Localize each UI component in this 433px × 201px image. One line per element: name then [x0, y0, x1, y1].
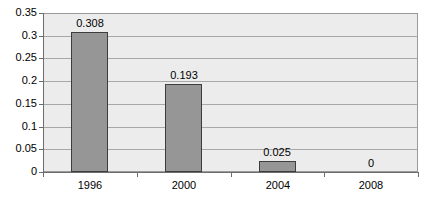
bar: [165, 84, 202, 172]
bar-value-label: 0.193: [149, 69, 219, 81]
y-axis-tick-label-wrap: 0.15: [0, 98, 37, 109]
x-axis-category-label: 2004: [231, 179, 325, 192]
y-axis-tick: [39, 104, 43, 105]
y-axis-tick-label: 0.05: [0, 143, 37, 154]
y-axis-tick-label: 0: [0, 166, 37, 177]
x-axis-category-label: 2008: [324, 179, 418, 192]
y-axis-tick-label-wrap: 0.25: [0, 52, 37, 63]
y-axis-tick-label: 0.3: [0, 30, 37, 41]
bar-chart: 00.050.10.150.20.250.30.35 0.3080.1930.0…: [0, 0, 433, 201]
y-axis-tick: [39, 36, 43, 37]
y-axis-tick-label: 0.1: [0, 121, 37, 132]
y-axis-line: [43, 13, 44, 173]
y-axis-tick-label-wrap: 0.2: [0, 75, 37, 86]
bar: [71, 32, 108, 172]
y-axis-tick: [39, 149, 43, 150]
y-axis-tick-label: 0.35: [0, 7, 37, 18]
x-axis-category-label: 1996: [43, 179, 137, 192]
y-axis-tick-label-wrap: 0: [0, 166, 37, 177]
y-axis-tick: [39, 13, 43, 14]
x-axis-tick: [324, 173, 325, 177]
x-axis-tick: [231, 173, 232, 177]
x-axis-tick: [137, 173, 138, 177]
y-axis-tick-label-wrap: 0.3: [0, 30, 37, 41]
y-axis-tick-label-wrap: 0.05: [0, 143, 37, 154]
bar-value-label: 0.025: [242, 146, 312, 158]
bar-value-label: 0: [336, 157, 406, 169]
y-axis-tick-label: 0.25: [0, 52, 37, 63]
bar: [259, 161, 296, 172]
y-axis-tick-label-wrap: 0.35: [0, 7, 37, 18]
y-axis-tick-label: 0.15: [0, 98, 37, 109]
y-axis-tick: [39, 81, 43, 82]
y-axis-tick: [39, 58, 43, 59]
x-axis-tick: [43, 173, 44, 177]
x-axis-tick: [418, 173, 419, 177]
y-axis-tick-label: 0.2: [0, 75, 37, 86]
y-axis-tick-label-wrap: 0.1: [0, 121, 37, 132]
x-axis-category-label: 2000: [137, 179, 231, 192]
bar-value-label: 0.308: [55, 17, 125, 29]
y-axis-tick: [39, 127, 43, 128]
